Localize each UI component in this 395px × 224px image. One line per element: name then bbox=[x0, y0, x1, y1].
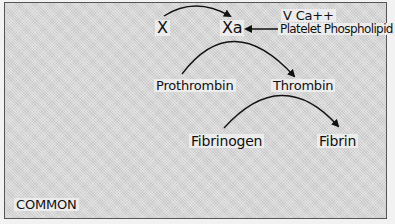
node-fibrinogen: Fibrinogen bbox=[189, 134, 264, 148]
arrow-prothrombin-to-thrombin bbox=[182, 41, 294, 76]
arrow-x-to-xa bbox=[164, 6, 230, 16]
node-factor-xa: Xa bbox=[220, 20, 244, 36]
cofactor-v-calcium: V Ca++ bbox=[281, 9, 336, 22]
node-factor-x: X bbox=[155, 20, 170, 36]
cofactor-platelet-phospholipid: Platelet Phospholipid bbox=[278, 23, 395, 35]
section-label-common: COMMON bbox=[14, 198, 79, 211]
node-thrombin: Thrombin bbox=[271, 79, 335, 92]
arrow-fibrinogen-to-fibrin bbox=[224, 95, 338, 128]
node-fibrin: Fibrin bbox=[317, 134, 358, 148]
node-prothrombin: Prothrombin bbox=[154, 79, 236, 92]
